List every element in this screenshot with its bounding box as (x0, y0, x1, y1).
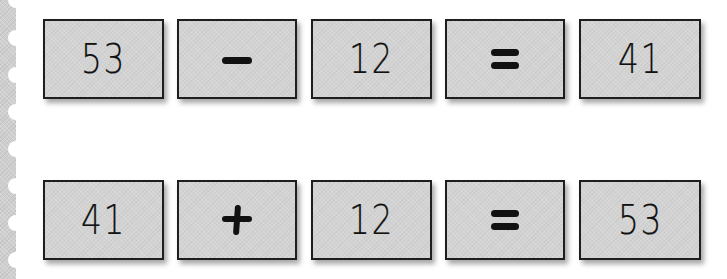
tile-value: 12 (349, 200, 394, 240)
minus-icon (222, 57, 252, 64)
tile-value: 53 (617, 200, 662, 240)
number-tile: 41 (579, 19, 701, 99)
number-tile: 53 (579, 180, 701, 260)
perforation-hole (8, 30, 24, 46)
perforation-hole (8, 104, 24, 120)
perforation-hole (8, 178, 24, 194)
tile-value: 12 (349, 39, 394, 79)
operator-tile-equals (445, 19, 565, 99)
perforated-stamp-edge (0, 0, 16, 279)
tile-value: 41 (81, 200, 126, 240)
number-tile: 12 (311, 180, 432, 260)
number-tile: 41 (43, 180, 164, 260)
plus-icon (222, 205, 252, 235)
tile-value: 41 (617, 39, 662, 79)
operator-tile-plus (177, 180, 297, 260)
equals-icon (491, 49, 519, 69)
operator-tile-minus (177, 19, 297, 99)
perforation-hole (8, 0, 24, 8)
perforation-hole (8, 215, 24, 231)
tile-value: 53 (81, 39, 126, 79)
equals-icon (491, 210, 519, 230)
perforation-hole (8, 141, 24, 157)
perforation-hole (8, 252, 24, 268)
number-tile: 12 (311, 19, 432, 99)
perforation-hole (8, 67, 24, 83)
operator-tile-equals (445, 180, 565, 260)
number-tile: 53 (43, 19, 164, 99)
